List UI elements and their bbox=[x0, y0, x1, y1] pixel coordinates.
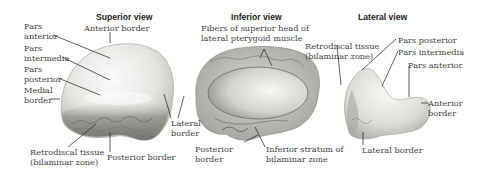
label-pars-posterior: Pars posterior bbox=[24, 65, 62, 85]
label-anterior-border: Anterior border bbox=[84, 24, 149, 34]
lateral-view-title: Lateral view bbox=[358, 12, 407, 22]
label-anterior-border-lateral: Anterior border bbox=[428, 99, 463, 119]
label-retrodiscal-tissue-lateral: Retrodiscal tissue (bilaminar zone) bbox=[305, 42, 379, 62]
label-pars-posterior-lateral: Pars posterior bbox=[398, 36, 457, 46]
lateral-view-disc bbox=[345, 68, 431, 139]
articular-disc-figure: Superior view Anterior border Pars anter… bbox=[0, 0, 477, 175]
superior-view-disc bbox=[61, 44, 173, 141]
label-pars-intermedia: Pars intermedia bbox=[24, 44, 69, 64]
label-lateral-border-lateral: Lateral border bbox=[362, 146, 423, 156]
inferior-view-title: Inferior view bbox=[231, 12, 282, 22]
label-pars-intermedia-lateral: Pars intermedia bbox=[398, 48, 464, 58]
label-medial-border: Medial border bbox=[24, 86, 53, 106]
superior-view-title: Superior view bbox=[96, 12, 152, 22]
label-posterior-border-inferior: Posterior border bbox=[195, 145, 233, 165]
label-lateral-border: Lateral border bbox=[171, 119, 201, 139]
label-inferior-stratum: Inferior stratum of bilaminar zone bbox=[266, 145, 344, 165]
label-posterior-border-superior: Posterior border bbox=[107, 153, 176, 163]
label-retrodiscal-tissue-superior: Retrodiscal tissue (bilaminar zone) bbox=[30, 148, 104, 168]
inferior-view-disc bbox=[196, 46, 320, 140]
label-lateral-pterygoid-fibers: Fibers of superior head of lateral ptery… bbox=[201, 24, 309, 44]
label-pars-anterior-lateral: Pars anterior bbox=[408, 61, 462, 71]
label-pars-anterior: Pars anterior bbox=[24, 22, 58, 42]
